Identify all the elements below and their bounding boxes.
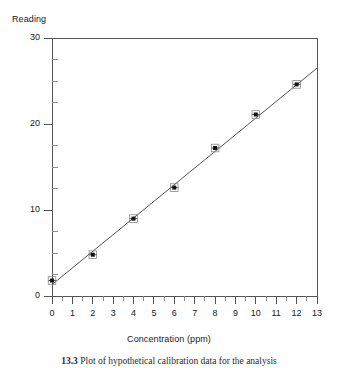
x-tick-label-7: 7 [185,308,205,318]
x-tick-label-6: 6 [164,308,184,318]
data-point [252,111,260,119]
x-tick-label-9: 9 [226,308,246,318]
y-tick-label-0: 0 [12,290,40,300]
x-tick-label-5: 5 [144,308,164,318]
y-axis-minor-ticks [52,60,58,275]
x-tick-label-13: 13 [307,308,327,318]
x-tick-label-12: 12 [287,308,307,318]
x-tick-label-3: 3 [103,308,123,318]
data-point-markers [48,81,301,285]
y-axis-major-ticks [44,38,52,296]
y-tick-label-30: 30 [12,32,40,42]
data-point [211,144,219,152]
x-tick-label-1: 1 [62,308,82,318]
figure-caption-text: Plot of hypothetical calibration data fo… [80,356,277,366]
regression-fit-line [52,68,317,285]
x-tick-label-4: 4 [124,308,144,318]
calibration-chart-figure: Reading [0,0,338,368]
plot-frame [52,38,317,296]
figure-caption-number: 13.3 [61,356,78,366]
x-tick-label-11: 11 [266,308,286,318]
figure-caption: 13.3 Plot of hypothetical calibration da… [0,356,338,367]
x-tick-label-0: 0 [42,308,62,318]
data-point [89,251,97,259]
x-tick-label-2: 2 [83,308,103,318]
y-tick-label-20: 20 [12,118,40,128]
y-tick-label-10: 10 [12,204,40,214]
x-tick-label-10: 10 [246,308,266,318]
x-tick-label-8: 8 [205,308,225,318]
x-axis-title: Concentration (ppm) [0,334,338,344]
x-axis-minor-ticks [62,296,307,301]
